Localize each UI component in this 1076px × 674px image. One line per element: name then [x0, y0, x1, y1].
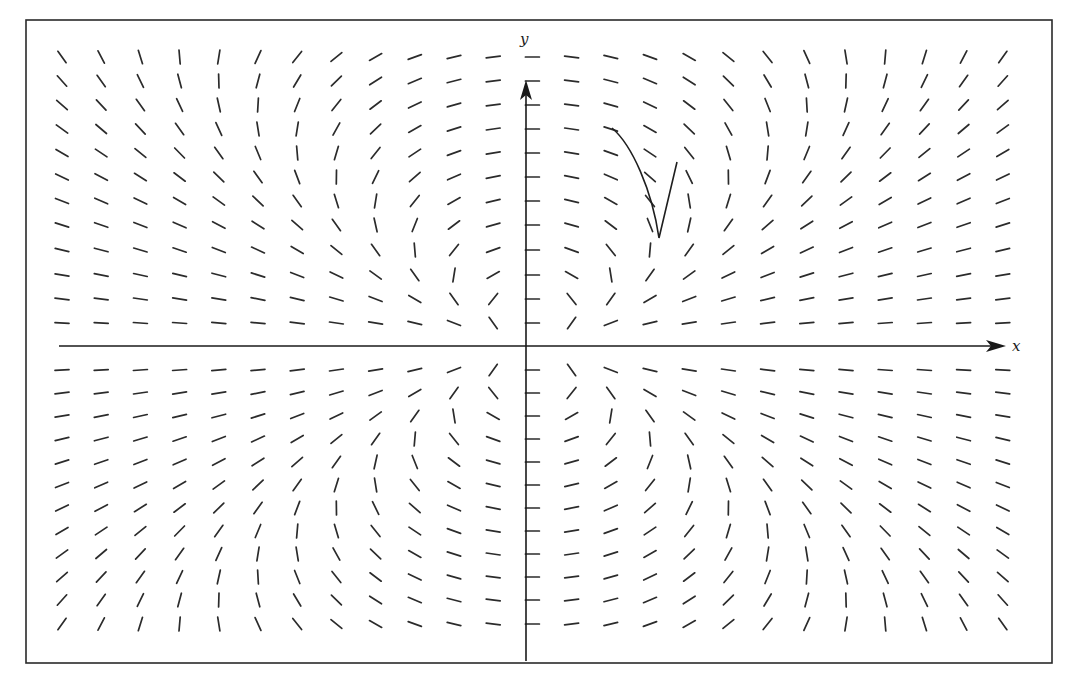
slope-segment — [767, 122, 769, 136]
slope-segment — [843, 123, 849, 136]
slope-segment — [604, 529, 617, 534]
slope-segment — [604, 151, 617, 156]
slope-segment — [330, 413, 343, 419]
slope-segment — [996, 248, 1010, 251]
slope-segment — [722, 413, 735, 419]
slope-segment — [292, 220, 303, 229]
slope-segment — [800, 369, 814, 370]
slope-segment — [567, 388, 576, 399]
slope-segment — [918, 223, 931, 228]
slope-segment — [58, 618, 66, 629]
slope-segment — [723, 595, 733, 605]
slope-segment — [174, 482, 186, 489]
slope-segment — [448, 221, 459, 229]
slope-segment — [57, 76, 66, 86]
slope-segment — [290, 297, 304, 300]
slope-segment — [996, 483, 1009, 488]
slope-segment — [96, 550, 107, 559]
slope-segment — [604, 622, 618, 625]
slope-segment — [841, 503, 851, 513]
slope-segment — [800, 436, 813, 442]
slope-segment — [414, 243, 415, 257]
slope-segment — [447, 575, 460, 579]
slope-segment — [957, 460, 970, 465]
slope-segment — [839, 369, 853, 370]
slope-segment — [800, 247, 813, 253]
slope-segment — [334, 146, 338, 159]
slope-segment — [57, 100, 68, 109]
slope-segment — [649, 243, 650, 257]
slope-segment — [371, 148, 380, 159]
slope-segment — [996, 199, 1009, 204]
slope-segment — [765, 501, 770, 514]
slope-segment — [212, 273, 226, 277]
slope-segment — [726, 194, 730, 207]
slope-segment — [334, 524, 338, 537]
slope-segment — [258, 570, 259, 584]
slope-segment — [447, 598, 461, 601]
slope-segment — [409, 527, 421, 535]
slope-segment — [486, 199, 500, 202]
slope-segment — [373, 502, 379, 515]
slope-segment — [292, 457, 303, 466]
slope-segment — [212, 298, 226, 300]
slope-segment — [332, 100, 341, 111]
slope-segment — [55, 460, 68, 464]
slope-segment — [134, 274, 148, 277]
slope-segment — [450, 387, 458, 398]
slope-segment — [649, 432, 650, 446]
slope-segment — [997, 550, 1008, 558]
slope-segment — [212, 392, 226, 394]
slope-segment — [450, 434, 459, 445]
slope-segment — [409, 551, 421, 558]
slope-segment — [447, 151, 460, 156]
slope-segment — [447, 79, 461, 82]
slope-segment — [610, 268, 612, 282]
slope-segment — [840, 459, 852, 466]
slope-segment — [453, 409, 455, 423]
slope-segment — [212, 322, 226, 323]
slope-segment — [804, 147, 809, 160]
slope-segment — [918, 482, 931, 488]
slope-segment — [568, 317, 576, 328]
x-axis: x — [59, 337, 1021, 355]
slope-segment — [761, 369, 775, 371]
slope-segment — [840, 197, 851, 205]
slope-segment — [94, 298, 108, 300]
slope-segment — [800, 392, 814, 395]
slope-segment — [957, 223, 970, 228]
slope-segment — [486, 128, 500, 130]
slope-segment — [374, 218, 377, 232]
slope-segment — [605, 198, 617, 205]
slope-segment — [917, 323, 931, 324]
slope-segment — [173, 248, 186, 252]
slope-segment — [918, 415, 932, 418]
slope-segment — [450, 245, 459, 256]
slope-segment — [448, 458, 459, 466]
slope-segment — [331, 76, 341, 86]
slope-segment — [645, 503, 656, 512]
slope-segment — [882, 99, 888, 112]
slope-segment — [487, 437, 500, 442]
slope-segment — [688, 455, 691, 469]
slope-segment — [56, 174, 69, 180]
slope-segment — [843, 548, 849, 561]
slope-segment — [486, 152, 500, 154]
slope-segment — [606, 245, 615, 256]
slope-segment — [137, 75, 143, 88]
slope-segment — [408, 597, 421, 602]
slope-segment — [136, 124, 146, 134]
slope-segment — [135, 173, 147, 180]
slope-segment — [957, 392, 971, 394]
slope-segment — [95, 460, 108, 465]
slope-segment — [55, 323, 69, 324]
slope-segment — [447, 529, 460, 534]
slope-segment — [134, 223, 147, 228]
slope-segment — [94, 248, 108, 252]
slope-segment — [293, 52, 302, 63]
slope-segment — [486, 176, 500, 179]
slope-segment — [447, 127, 460, 131]
slope-segment — [686, 171, 692, 184]
slope-segment — [922, 50, 926, 63]
slope-segment — [173, 222, 186, 228]
